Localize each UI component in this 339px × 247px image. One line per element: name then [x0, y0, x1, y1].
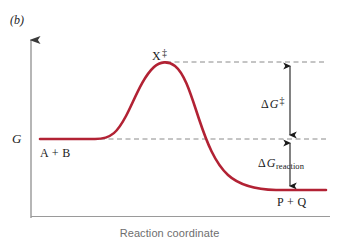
delta-symbol: Δ	[261, 97, 269, 111]
x-axis-title: Reaction coordinate	[0, 228, 339, 239]
reaction-subscript: reaction	[276, 161, 304, 171]
reaction-coordinate-diagram: (b) G A + B X‡ P + Q ΔG‡ ΔGreaction Reac…	[0, 0, 339, 247]
reactants-label: A + B	[40, 147, 71, 159]
products-label: P + Q	[277, 196, 307, 208]
double-dagger-icon: ‡	[279, 95, 284, 106]
plot-canvas	[0, 0, 339, 247]
gibbs-symbol: G	[270, 97, 279, 111]
y-axis-label: G	[12, 132, 21, 145]
transition-state-symbol: X	[152, 49, 161, 63]
gibbs-symbol: G	[267, 156, 276, 170]
transition-state-label: X‡	[152, 48, 167, 62]
panel-label: (b)	[10, 14, 24, 26]
reaction-energy-label: ΔGreaction	[258, 157, 304, 171]
delta-symbol: Δ	[258, 156, 266, 170]
double-dagger-icon: ‡	[162, 47, 167, 58]
activation-energy-label: ΔG‡	[261, 96, 284, 110]
